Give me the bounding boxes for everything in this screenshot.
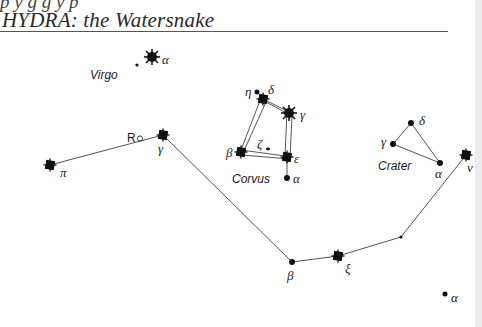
- lone-alpha-label: α: [451, 290, 459, 305]
- corvus-asterism-lines: [241, 98, 292, 178]
- crater-delta-star-icon: [408, 120, 414, 126]
- corvus-epsilon-label: ε: [294, 151, 300, 166]
- hydra-pi-label: π: [60, 165, 67, 180]
- corvus-beta-label: β: [225, 145, 233, 160]
- corvus-epsilon-star-icon: [281, 151, 294, 164]
- variable-star-r-label: R: [127, 131, 136, 145]
- crater-asterism-line: [393, 123, 440, 163]
- crater-gamma-star-icon: [390, 141, 396, 147]
- hydra-beta-star-icon: [289, 259, 295, 265]
- star-chart-page: p y g g y p HYDRA: the Watersnake: [0, 0, 482, 327]
- corvus-gamma-star-icon: [281, 105, 297, 121]
- hydra-xi-star-icon: [332, 250, 345, 263]
- variable-star-r-icon: [137, 136, 142, 141]
- virgo-minor-star-icon: [135, 63, 138, 66]
- hydra-beta-label: β: [286, 268, 294, 283]
- crater-alpha-label: α: [435, 166, 443, 181]
- hydra-asterism-line: [50, 135, 466, 262]
- corvus-zeta-label: ζ: [257, 136, 263, 151]
- corvus-label: Corvus: [232, 172, 270, 186]
- crater-delta-label: δ: [419, 113, 426, 128]
- virgo-label: Virgo: [90, 68, 118, 82]
- crater-gamma-label: γ: [381, 134, 387, 149]
- corvus-zeta-star-icon: [266, 148, 270, 151]
- lone-alpha-star-icon: [443, 292, 448, 297]
- corvus-gamma-label: γ: [300, 107, 306, 122]
- corvus-eta-star-icon: [255, 90, 260, 95]
- corvus-delta-label: δ: [268, 82, 275, 97]
- virgo-alpha-star-icon: [144, 49, 160, 65]
- constellation-map: α Virgo π γ R β ξ ν η δ γ ε β ζ α Corvus: [0, 0, 482, 327]
- hydra-gamma-label: γ: [158, 141, 164, 156]
- hydra-pi-star-icon: [44, 159, 57, 172]
- virgo-alpha-label: α: [162, 52, 170, 67]
- corvus-alpha-star-icon: [284, 175, 290, 181]
- corvus-alpha-label: α: [293, 171, 301, 186]
- crater-label: Crater: [378, 159, 412, 173]
- hydra-nu-label: ν: [467, 160, 473, 175]
- hydra-minor-star-icon: [399, 235, 402, 238]
- corvus-eta-label: η: [245, 84, 251, 99]
- hydra-xi-label: ξ: [345, 261, 351, 276]
